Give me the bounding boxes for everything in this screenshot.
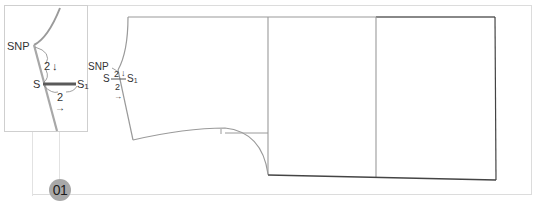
inset-across-arrow: → [55,102,65,113]
inset-neckline-curve [34,8,60,45]
inset-s1-label: S1 [77,78,89,91]
step-number-badge: 01 [49,179,71,201]
inset-drawing: SNP 2 ↓ S S1 2 → [0,0,538,202]
inset-down-arrow: ↓ [52,60,58,72]
inset-snp-label: SNP [7,40,30,52]
inset-down-measure: 2 [44,60,50,72]
inset-s-label: S [33,78,40,90]
